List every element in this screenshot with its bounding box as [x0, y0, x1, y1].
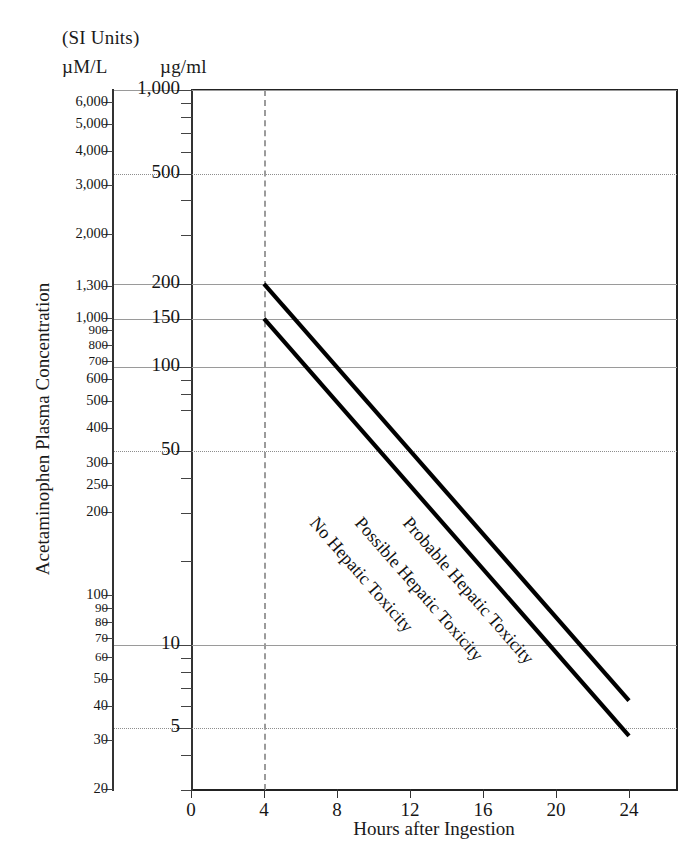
nomogram-figure: (SI Units) µM/L µg/ml Acetaminophen Plas… — [0, 0, 694, 863]
toxicity-lines — [0, 0, 694, 863]
probable-toxicity-line — [264, 284, 629, 701]
